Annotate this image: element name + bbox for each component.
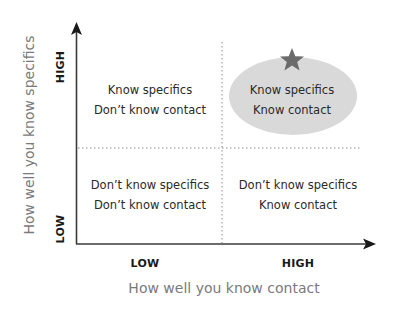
quadrant-bottom-right-line2: Know contact — [239, 195, 358, 215]
quadrant-bottom-right: Don’t know specifics Know contact — [239, 175, 358, 215]
quadrant-top-left-line1: Know specifics — [94, 80, 206, 100]
x-axis-label: How well you know contact — [128, 280, 319, 296]
quadrant-top-right: Know specifics Know contact — [250, 80, 334, 120]
y-axis-label: How well you know specifics — [21, 35, 37, 234]
quadrant-top-left: Know specifics Don’t know contact — [94, 80, 206, 120]
y-axis-low-tick: LOW — [54, 214, 67, 243]
x-axis-high-tick: HIGH — [282, 257, 315, 270]
quadrant-top-left-line2: Don’t know contact — [94, 100, 206, 120]
quadrant-top-right-line2: Know contact — [250, 100, 334, 120]
quadrant-bottom-left-line2: Don’t know contact — [91, 195, 210, 215]
quadrant-bottom-left-line1: Don’t know specifics — [91, 175, 210, 195]
x-axis-low-tick: LOW — [130, 257, 159, 270]
quadrant-bottom-right-line1: Don’t know specifics — [239, 175, 358, 195]
quadrant-chart-graphics — [0, 0, 395, 310]
quadrant-top-right-line1: Know specifics — [250, 80, 334, 100]
quadrant-bottom-left: Don’t know specifics Don’t know contact — [91, 175, 210, 215]
y-axis-high-tick: HIGH — [54, 51, 67, 84]
